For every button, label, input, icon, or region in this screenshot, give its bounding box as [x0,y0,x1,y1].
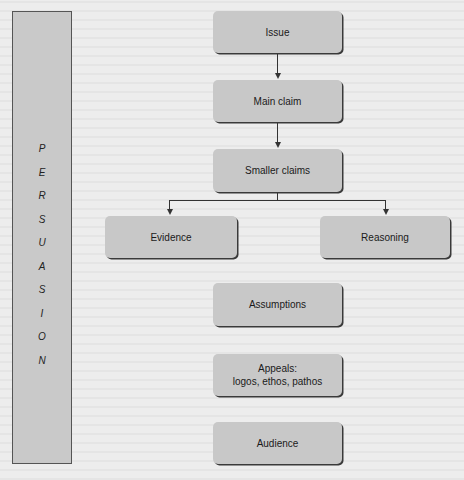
arrowhead-icon [167,209,173,215]
side-letter: O [38,325,46,349]
node-main-claim: Main claim [213,80,342,122]
connector-issue-main-claim [277,54,278,74]
arrowhead-icon [275,142,281,148]
side-letter: S [39,278,46,302]
node-smaller-claims-label: Smaller claims [245,164,310,177]
node-audience-label: Audience [257,437,299,450]
arrowhead-icon [383,209,389,215]
side-letter: E [39,161,46,185]
side-letter: R [38,184,45,208]
node-audience: Audience [213,422,342,464]
node-appeals-subtitle: logos, ethos, pathos [233,375,323,388]
side-letter: N [38,349,45,373]
persuasion-vertical-label: P E R S U A S I O N [13,137,71,372]
persuasion-side-bar: P E R S U A S I O N [12,11,72,464]
node-issue: Issue [213,11,342,53]
side-letter: U [38,231,45,255]
node-evidence-label: Evidence [150,231,191,244]
node-smaller-claims: Smaller claims [213,149,342,192]
node-issue-label: Issue [266,26,290,39]
node-reasoning-label: Reasoning [361,231,409,244]
side-letter: I [41,302,44,326]
node-evidence: Evidence [105,216,237,258]
node-appeals: Appeals: logos, ethos, pathos [213,354,342,396]
side-letter: P [39,137,46,161]
side-letter: A [39,255,46,279]
node-reasoning: Reasoning [320,216,450,258]
side-letter: S [39,208,46,232]
connector-branch-horizontal [169,200,386,201]
node-assumptions: Assumptions [213,283,342,326]
node-appeals-title: Appeals: [233,362,323,375]
connector-main-claim-smaller-claims [277,123,278,143]
node-assumptions-label: Assumptions [249,298,306,311]
node-main-claim-label: Main claim [254,95,302,108]
arrowhead-icon [275,73,281,79]
